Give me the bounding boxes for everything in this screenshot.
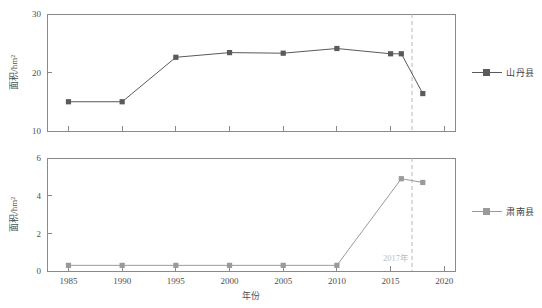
y-tick-label: 0 — [37, 266, 42, 276]
chart-panel-top: 102030面积/hm² — [0, 0, 470, 150]
chart-svg-bottom: 024619851990199520002005201020152020面积/h… — [0, 150, 470, 308]
data-point-marker — [227, 263, 232, 268]
data-point-marker — [388, 51, 393, 56]
data-point-marker — [120, 263, 125, 268]
data-point-marker — [120, 99, 125, 104]
y-tick-label: 6 — [37, 153, 42, 163]
chart-svg-top: 102030面积/hm² — [0, 0, 470, 150]
x-tick-label: 1985 — [59, 276, 78, 286]
data-point-marker — [227, 50, 232, 55]
legend-label-bottom: 肃南县 — [506, 205, 535, 218]
data-point-marker — [334, 46, 339, 51]
y-axis-label: 面积/hm² — [8, 55, 19, 90]
y-tick-label: 30 — [32, 9, 42, 19]
legend-top: 山丹县 — [472, 66, 535, 79]
x-tick-label: 2005 — [274, 276, 293, 286]
y-tick-label: 20 — [32, 68, 42, 78]
data-point-marker — [399, 51, 404, 56]
legend-bottom: 肃南县 — [472, 205, 535, 218]
y-tick-label: 4 — [37, 191, 42, 201]
data-point-marker — [281, 263, 286, 268]
x-tick-label: 1995 — [167, 276, 186, 286]
x-axis-label: 年份 — [242, 290, 260, 301]
y-axis-label: 面积/hm² — [8, 197, 19, 232]
figure-container: 102030面积/hm² 024619851990199520002005201… — [0, 0, 542, 308]
series-line — [68, 49, 422, 102]
data-point-marker — [420, 180, 425, 185]
legend-sample-icon-top — [472, 68, 502, 77]
y-tick-label: 10 — [32, 126, 42, 136]
plot-frame — [47, 14, 455, 131]
x-tick-label: 2020 — [435, 276, 454, 286]
chart-panel-bottom: 024619851990199520002005201020152020面积/h… — [0, 150, 470, 308]
data-point-marker — [334, 263, 339, 268]
data-point-marker — [420, 91, 425, 96]
data-point-marker — [173, 263, 178, 268]
x-tick-label: 2015 — [382, 276, 401, 286]
data-point-marker — [66, 99, 71, 104]
data-point-marker — [281, 51, 286, 56]
legend-sample-icon-bottom — [472, 207, 502, 216]
legend-label-top: 山丹县 — [506, 66, 535, 79]
x-tick-label: 1990 — [113, 276, 132, 286]
annotation-2017-label: 2017年 — [383, 253, 409, 263]
data-point-marker — [399, 176, 404, 181]
x-tick-label: 2000 — [221, 276, 240, 286]
series-line — [68, 179, 422, 266]
y-tick-label: 2 — [37, 229, 42, 239]
data-point-marker — [66, 263, 71, 268]
x-tick-label: 2010 — [328, 276, 347, 286]
data-point-marker — [173, 55, 178, 60]
